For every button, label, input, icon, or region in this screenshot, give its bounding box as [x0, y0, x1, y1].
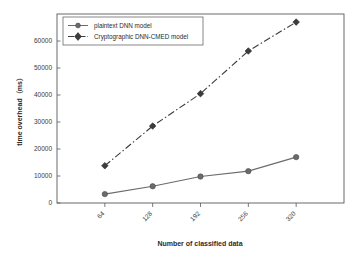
- x-axis-title: Number of classified data: [157, 240, 242, 247]
- x-axis-ticks: 64128192256320: [95, 203, 297, 222]
- x-tick-label: 128: [141, 209, 154, 222]
- y-axis-title: time overhead（ms）: [16, 74, 24, 146]
- data-point-marker: [246, 168, 251, 173]
- x-tick-label: 256: [236, 209, 249, 222]
- data-point-marker: [150, 184, 155, 189]
- y-tick-label: 10000: [34, 172, 52, 179]
- chart-legend: plaintext DNN model Cryptographic DNN-CM…: [63, 17, 203, 45]
- y-tick-label: 40000: [34, 91, 52, 98]
- chart-figure: 0100002000030000400005000060000 64128192…: [0, 0, 362, 257]
- y-tick-label: 50000: [34, 64, 52, 71]
- y-tick-label: 60000: [34, 37, 52, 44]
- data-point-marker: [102, 191, 107, 196]
- x-tick-label: 64: [95, 209, 105, 219]
- legend-label-plaintext: plaintext DNN model: [94, 22, 152, 30]
- legend-label-cryptographic: Cryptographic DNN-CMED model: [94, 33, 188, 41]
- data-point-marker: [198, 174, 203, 179]
- legend-marker-plaintext: [76, 23, 81, 28]
- x-tick-label: 320: [284, 209, 297, 222]
- y-tick-label: 0: [48, 199, 52, 206]
- y-tick-label: 30000: [34, 118, 52, 125]
- data-point-marker: [293, 154, 298, 159]
- x-tick-label: 192: [189, 209, 202, 222]
- y-tick-label: 20000: [34, 145, 52, 152]
- line-chart: 0100002000030000400005000060000 64128192…: [0, 0, 362, 257]
- y-axis-ticks: 0100002000030000400005000060000: [34, 37, 61, 206]
